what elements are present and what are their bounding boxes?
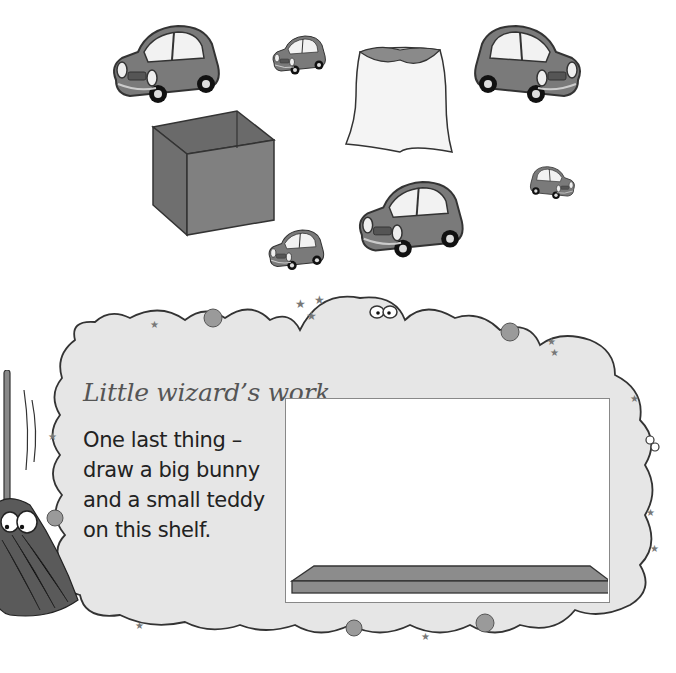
toy-scene (0, 0, 676, 290)
svg-text:★: ★ (547, 336, 556, 347)
box-icon (153, 111, 274, 235)
activity-instructions: One last thing – draw a big bunny and a … (83, 425, 265, 545)
car-large-icon (114, 26, 219, 103)
svg-text:★: ★ (646, 507, 655, 518)
instruction-line: draw a big bunny (83, 455, 265, 485)
shelf-icon (286, 399, 608, 601)
svg-text:★: ★ (306, 309, 317, 323)
car-large-icon (475, 26, 580, 103)
svg-text:★: ★ (135, 620, 144, 631)
svg-text:★: ★ (550, 347, 559, 358)
svg-text:★: ★ (650, 543, 659, 554)
instruction-line: and a small teddy (83, 485, 265, 515)
svg-text:★: ★ (295, 297, 306, 311)
sack-icon (346, 47, 452, 152)
svg-text:★: ★ (630, 393, 639, 404)
drawing-area[interactable] (285, 398, 610, 603)
car-small-icon (273, 36, 325, 75)
instruction-line: One last thing – (83, 425, 265, 455)
svg-text:★: ★ (314, 293, 325, 307)
car-large-icon (360, 182, 463, 257)
svg-text:★: ★ (150, 319, 159, 330)
broom-character-icon (0, 370, 90, 630)
car-small-icon (269, 230, 324, 270)
instruction-line: on this shelf. (83, 515, 265, 545)
svg-text:★: ★ (421, 631, 430, 642)
car-tiny-icon (530, 167, 574, 199)
